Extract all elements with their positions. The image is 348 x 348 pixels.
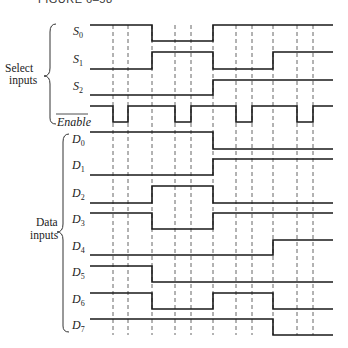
signal-label: S1 (73, 52, 83, 68)
waveform-enable (90, 106, 333, 122)
signal-label: D6 (71, 292, 85, 308)
select-inputs-brace (44, 24, 56, 124)
signal-label: D1 (71, 158, 85, 174)
dashed-time-markers (113, 25, 313, 335)
select-inputs-label-line2: inputs (9, 74, 38, 87)
signal-label: D3 (71, 212, 85, 228)
data-inputs-label-line2: inputs (30, 229, 59, 242)
data-inputs-brace (57, 134, 69, 332)
signal-label: Enable (56, 115, 92, 129)
signal-label: D2 (71, 186, 85, 202)
signal-label: D7 (71, 318, 85, 334)
timing-diagram: FIGURE 6–58 Select inputs Data inputs S0… (0, 0, 348, 348)
signal-label: S0 (73, 24, 83, 40)
signal-labels: S0S1S2EnableD0D1D2D3D4D5D6D7 (56, 24, 92, 334)
data-inputs-label-line1: Data (36, 216, 58, 228)
select-inputs-group: Select inputs (5, 24, 56, 124)
signal-label: D4 (71, 239, 85, 255)
signal-label: D5 (71, 265, 85, 281)
data-inputs-group: Data inputs (30, 134, 69, 332)
signal-label: D0 (71, 132, 85, 148)
select-inputs-label-line1: Select (5, 62, 34, 74)
signal-label: S2 (73, 79, 83, 95)
figure-title: FIGURE 6–58 (38, 0, 113, 5)
